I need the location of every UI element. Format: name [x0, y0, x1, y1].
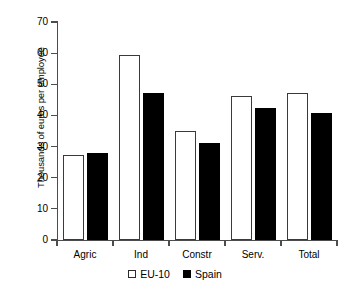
- bar-constr-eu-10: [175, 131, 196, 240]
- bar-serv-spain: [255, 108, 276, 240]
- bar-total-eu-10: [287, 93, 308, 240]
- x-axis-tick: [280, 240, 281, 246]
- bar-total-spain: [311, 113, 332, 240]
- bar-ind-eu-10: [119, 55, 140, 240]
- y-axis-tick-label: 50: [8, 79, 48, 89]
- plot-area: [57, 22, 337, 240]
- y-axis-tick-label: 20: [8, 173, 48, 183]
- x-axis-label-ind: Ind: [113, 249, 169, 260]
- x-axis-line: [56, 240, 338, 241]
- y-axis-tick-label: 30: [8, 142, 48, 152]
- bar-agric-spain: [87, 153, 108, 240]
- chart-legend: EU-10Spain: [0, 268, 350, 280]
- x-axis-tick: [336, 240, 337, 246]
- x-axis-label-constr: Constr: [169, 249, 225, 260]
- y-axis-tick-label: 10: [8, 204, 48, 214]
- bar-ind-spain: [143, 93, 164, 240]
- bar-constr-spain: [199, 143, 220, 240]
- filled-square-icon: [183, 270, 191, 278]
- open-square-icon: [128, 270, 136, 278]
- x-axis-label-serv: Serv.: [225, 249, 281, 260]
- x-axis-tick: [168, 240, 169, 246]
- bar-serv-eu-10: [231, 96, 252, 240]
- x-axis-tick: [224, 240, 225, 246]
- y-axis-tick-label: 0: [8, 235, 48, 245]
- legend-label: Spain: [195, 268, 222, 280]
- x-axis-tick: [112, 240, 113, 246]
- x-axis-label-total: Total: [281, 249, 337, 260]
- y-axis-tick-label: 60: [8, 48, 48, 58]
- legend-entry-eu-10: EU-10: [128, 268, 170, 280]
- x-axis-label-agric: Agric: [57, 249, 113, 260]
- y-axis-tick-label: 40: [8, 110, 48, 120]
- x-axis-tick: [56, 240, 57, 246]
- legend-label: EU-10: [140, 268, 170, 280]
- legend-entry-spain: Spain: [183, 268, 222, 280]
- bar-agric-eu-10: [63, 155, 84, 240]
- bar-chart-figure: Thousands of euros per employee 01020304…: [0, 0, 350, 297]
- y-axis-tick-label: 70: [8, 17, 48, 27]
